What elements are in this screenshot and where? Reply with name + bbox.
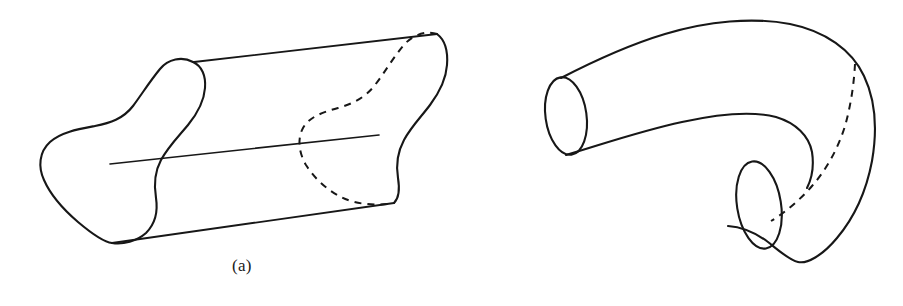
- far-cross-section-hidden-curve: [299, 33, 437, 205]
- left-end-face-ellipse: [540, 75, 591, 158]
- figure-root: (a) (b): [0, 0, 903, 306]
- central-axis-line: [110, 135, 379, 164]
- generalized-cylinder-diagram: [0, 0, 460, 306]
- figure-panel-b: (b): [460, 0, 903, 306]
- lower-end-face-ellipse: [730, 158, 787, 252]
- near-cross-section-seam: [112, 62, 205, 244]
- figure-panel-a: (a): [0, 0, 460, 306]
- panel-a-caption: (a): [232, 256, 252, 276]
- bottom-generator-line: [112, 203, 394, 243]
- bent-tube-diagram: [460, 0, 903, 306]
- far-cross-section-outline: [394, 34, 447, 203]
- hidden-seam-curve: [771, 64, 855, 221]
- inner-silhouette: [566, 114, 813, 188]
- near-cross-section-outline: [40, 59, 193, 243]
